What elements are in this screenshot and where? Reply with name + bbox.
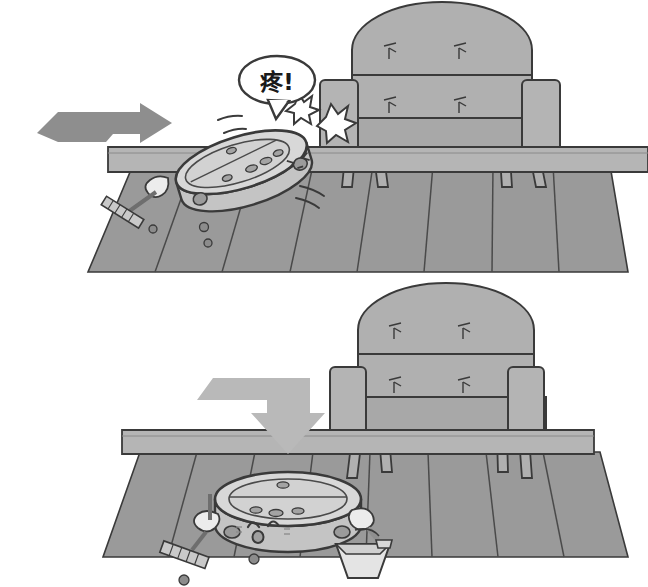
robot-vacuum	[215, 472, 361, 552]
illustration-canvas: 疼!	[0, 0, 648, 587]
sofa-arm-right	[508, 367, 544, 439]
dustpan	[336, 540, 392, 578]
forward-motion-arrow	[37, 103, 172, 143]
baseboard-ledge	[122, 430, 594, 454]
speech-bubble-text: 疼!	[260, 69, 294, 95]
panel-stuck	[0, 282, 648, 587]
sofa-arm-left	[330, 367, 366, 439]
panel-collision: 疼!	[0, 0, 648, 282]
wood-floor	[103, 452, 628, 557]
